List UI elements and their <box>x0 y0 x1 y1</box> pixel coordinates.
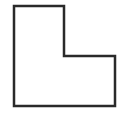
l-shape-outline <box>14 6 115 106</box>
diagram-canvas <box>0 0 119 113</box>
